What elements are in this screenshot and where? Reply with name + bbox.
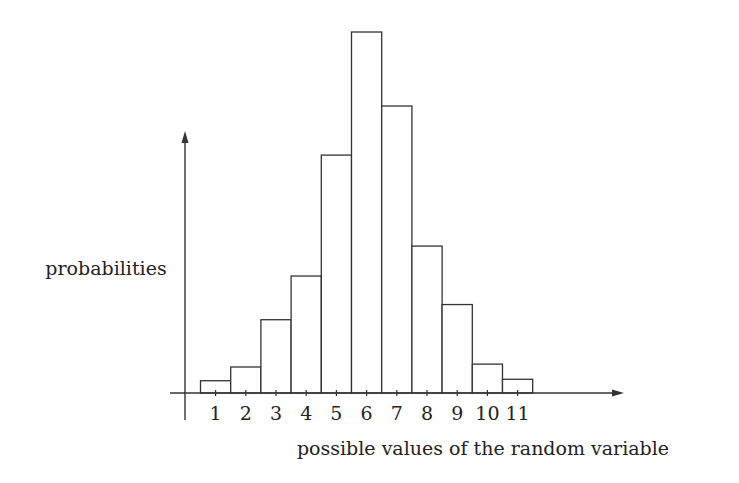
bar-4	[291, 276, 321, 393]
bars-group	[201, 32, 533, 393]
histogram-chart: 1234567891011 probabilities possible val…	[0, 0, 739, 483]
bar-3	[261, 320, 291, 393]
x-axis-label: possible values of the random variable	[297, 437, 669, 459]
x-tick-label: 2	[240, 402, 252, 424]
bar-10	[472, 364, 502, 393]
bar-9	[442, 305, 472, 393]
bar-2	[231, 367, 261, 393]
x-tick-label: 11	[506, 402, 530, 424]
x-tick-label: 9	[451, 402, 463, 424]
x-tick-label: 8	[421, 402, 433, 424]
y-axis-label: probabilities	[45, 257, 166, 279]
x-tick-label: 5	[330, 402, 342, 424]
bar-7	[382, 106, 412, 393]
x-tick-label: 6	[361, 402, 373, 424]
bar-5	[321, 155, 351, 393]
x-tick-label: 4	[300, 402, 312, 424]
y-axis-arrow-icon	[182, 131, 189, 143]
x-tick-label: 3	[270, 402, 282, 424]
x-tick-label: 10	[475, 402, 499, 424]
x-tick-labels-group: 1234567891011	[210, 402, 530, 424]
bar-8	[412, 246, 442, 393]
x-tick-label: 1	[210, 402, 222, 424]
bar-6	[352, 32, 382, 393]
x-axis-arrow-icon	[612, 390, 624, 397]
x-tick-label: 7	[391, 402, 403, 424]
